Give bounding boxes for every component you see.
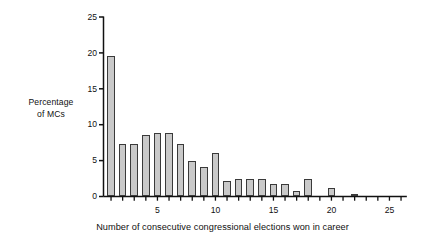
bar (223, 181, 231, 196)
y-tick-label: 15 (75, 85, 97, 94)
bar (304, 179, 312, 197)
bar (281, 184, 289, 196)
bar (142, 135, 150, 196)
bar (130, 144, 138, 196)
bar (200, 167, 208, 196)
y-tick-label: 5 (75, 156, 97, 165)
bar (177, 144, 185, 196)
bar (188, 161, 196, 196)
x-tick-label: 25 (379, 206, 399, 215)
x-tick-label: 15 (263, 206, 283, 215)
bar (235, 179, 243, 197)
bar (154, 133, 162, 197)
bar (351, 194, 359, 197)
bar (246, 179, 254, 197)
y-tick-label: 0 (75, 192, 97, 201)
bar (270, 184, 278, 196)
bar (119, 144, 127, 196)
x-axis-title: Number of consecutive congressional elec… (0, 222, 445, 232)
x-tick-label: 20 (321, 206, 341, 215)
bar (293, 191, 301, 197)
plot-area: 0510152025510152025 (0, 0, 445, 246)
bar (165, 133, 173, 197)
bar (107, 56, 115, 197)
histogram-chart: Percentage of MCs 0510152025510152025 Nu… (0, 0, 445, 246)
y-tick-label: 10 (75, 120, 97, 129)
bar (212, 153, 220, 197)
y-tick-label: 25 (75, 13, 97, 22)
x-tick-label: 10 (205, 206, 225, 215)
bar (258, 179, 266, 197)
bar (328, 188, 336, 197)
y-tick-label: 20 (75, 49, 97, 58)
x-tick-label: 5 (147, 206, 167, 215)
